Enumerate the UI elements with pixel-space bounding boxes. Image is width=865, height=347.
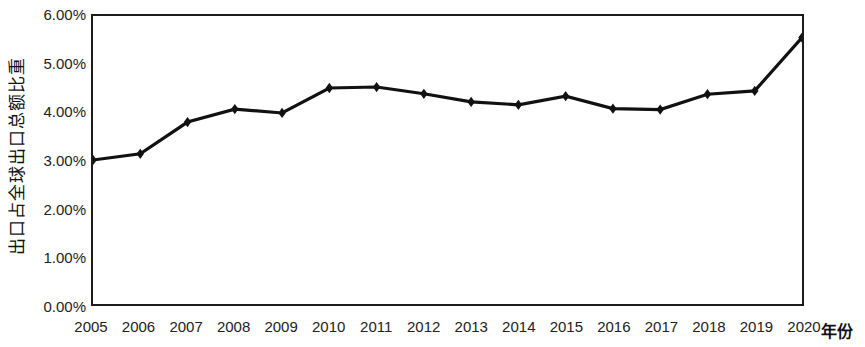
x-tick-label: 2007: [169, 318, 202, 335]
series-line: [93, 38, 802, 160]
x-axis-tick-labels: 2005200620072008200920102011201220132014…: [0, 318, 865, 347]
x-tick-label: 2019: [740, 318, 773, 335]
data-point-marker: [515, 100, 522, 110]
x-tick-label: 2016: [597, 318, 630, 335]
data-point-marker: [231, 104, 238, 114]
y-tick-label: 0.00%: [28, 298, 86, 315]
x-tick-label: 2011: [360, 318, 392, 335]
x-tick-label: 2012: [407, 318, 440, 335]
data-point-marker: [562, 91, 569, 101]
y-tick-label: 2.00%: [28, 200, 86, 217]
y-tick-label: 5.00%: [28, 54, 86, 71]
y-tick-label: 4.00%: [28, 103, 86, 120]
y-tick-label: 3.00%: [28, 152, 86, 169]
x-tick-label: 2014: [502, 318, 535, 335]
y-axis-title-label: 出口占全球出口总额比重: [3, 56, 28, 254]
x-tick-label: 2017: [645, 318, 678, 335]
y-tick-label: 1.00%: [28, 249, 86, 266]
x-tick-label: 2015: [550, 318, 583, 335]
x-tick-label: 2013: [455, 318, 488, 335]
x-tick-label: 2005: [74, 318, 107, 335]
data-point-marker: [467, 97, 474, 107]
data-point-marker: [326, 83, 333, 93]
plot-area: [91, 14, 804, 306]
series-plot: [93, 16, 802, 304]
data-point-marker: [609, 104, 616, 114]
x-tick-label: 2008: [217, 318, 250, 335]
line-chart: 出口占全球出口总额比重 0.00%1.00%2.00%3.00%4.00%5.0…: [0, 0, 865, 347]
data-point-marker: [420, 89, 427, 99]
x-tick-label: 2010: [312, 318, 345, 335]
y-axis-tick-labels: 0.00%1.00%2.00%3.00%4.00%5.00%6.00%: [26, 0, 86, 347]
data-point-marker: [656, 104, 663, 114]
x-tick-label: 2006: [122, 318, 155, 335]
x-tick-label: 2009: [264, 318, 297, 335]
x-tick-label: 2018: [692, 318, 725, 335]
data-point-marker: [93, 155, 97, 165]
data-point-marker: [278, 108, 285, 118]
data-point-marker: [704, 89, 711, 99]
data-point-marker: [373, 82, 380, 92]
y-tick-label: 6.00%: [28, 6, 86, 23]
x-tick-label: 2020: [787, 318, 820, 335]
x-axis-title: 年份: [821, 318, 853, 342]
